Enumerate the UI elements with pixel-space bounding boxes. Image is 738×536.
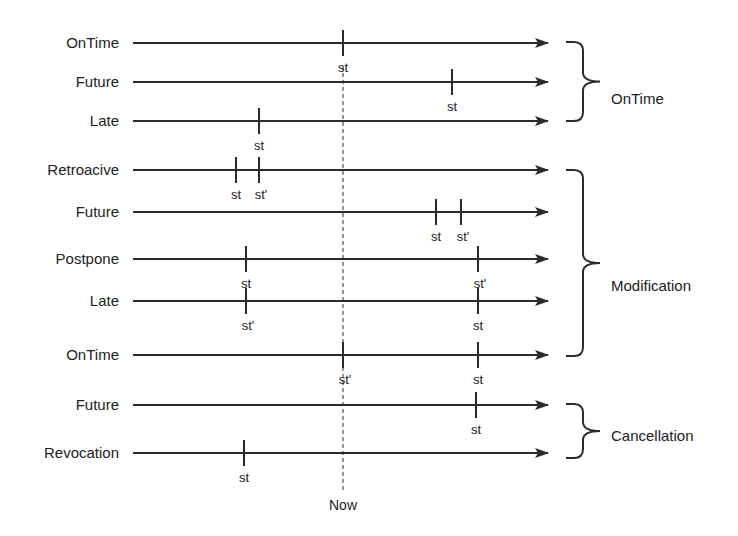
tick-label: st [471,422,482,437]
group-brace: OnTime [566,42,664,121]
tick-label: st [254,138,265,153]
timeline-row: Latest'st [90,288,548,333]
timeline-rows: OnTimestFuturestLatestRetroacivestst'Fut… [44,30,548,485]
group-label: Cancellation [611,427,694,444]
row-label: Future [76,396,119,413]
tick-label: st [338,60,349,75]
now-marker: Now [329,66,358,513]
row-label: Late [90,112,119,129]
tick-label: st [473,318,484,333]
tick-label: st' [255,187,268,202]
group-brace: Modification [566,170,691,356]
tick-label: st [431,229,442,244]
row-label: OnTime [66,346,119,363]
row-label: Postpone [56,250,119,267]
tick-label: st' [242,318,255,333]
timeline-row: Futurest [76,69,548,114]
row-label: Future [76,203,119,220]
group-label: Modification [611,277,691,294]
group-brace: Cancellation [566,404,694,458]
row-label: Retroacive [47,161,119,178]
timeline-row: Futurest [76,392,548,437]
group-braces: OnTimeModificationCancellation [566,42,694,458]
row-label: Late [90,292,119,309]
now-label: Now [329,497,358,513]
timeline-row: Retroacivestst' [47,157,548,202]
tick-label: st' [457,229,470,244]
timeline-row: OnTimest [66,30,548,75]
decision-timeline-diagram: Now OnTimestFuturestLatestRetroacivestst… [0,0,738,536]
row-label: OnTime [66,34,119,51]
timeline-row: Futurestst' [76,199,548,244]
tick-label: st' [474,276,487,291]
tick-label: st [447,99,458,114]
group-label: OnTime [611,90,664,107]
row-label: Revocation [44,444,119,461]
diagram-canvas: Now OnTimestFuturestLatestRetroacivestst… [0,0,738,536]
timeline-row: OnTimest'st [66,342,548,387]
tick-label: st [239,470,250,485]
timeline-row: Latest [90,108,548,153]
row-label: Future [76,73,119,90]
tick-label: st' [339,372,352,387]
tick-label: st [473,372,484,387]
curly-brace-icon [566,404,600,458]
curly-brace-icon [566,42,600,121]
timeline-row: Revocationst [44,440,548,485]
tick-label: st [231,187,242,202]
timeline-row: Postponestst' [56,246,548,291]
curly-brace-icon [566,170,600,356]
